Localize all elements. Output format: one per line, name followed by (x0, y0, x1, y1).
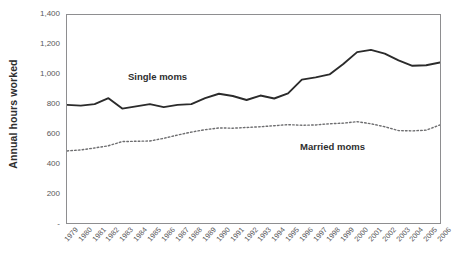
series-label-married-moms: Married moms (300, 141, 365, 152)
y-tick-label: 1,400 (26, 10, 64, 18)
x-tick-label: 1984 (132, 226, 148, 243)
y-tick-label: 600 (26, 130, 64, 138)
x-tick-label: 1996 (298, 226, 314, 243)
x-axis-tick-labels: 1979198019811982198319841985198619871988… (66, 226, 441, 256)
x-tick-label: 1986 (160, 226, 176, 243)
y-axis-title-text: Annual hours worked (7, 59, 19, 168)
y-axis-tick-labels: 1,4001,2001,000800600400200- (26, 0, 64, 256)
y-tick-label: 1,000 (26, 70, 64, 78)
x-tick-label: 1989 (201, 226, 217, 243)
plot-svg (67, 15, 440, 223)
series-label-single-moms: Single moms (128, 71, 187, 82)
y-tick-label: 200 (26, 190, 64, 198)
x-tick-label: 2000 (353, 226, 369, 243)
x-tick-label: 1995 (284, 226, 300, 243)
series-line-married-moms (67, 122, 440, 151)
y-tick-label: 400 (26, 160, 64, 168)
x-tick-label: 2002 (381, 226, 397, 243)
x-tick-label: 1980 (77, 226, 93, 243)
plot-area (66, 14, 441, 224)
x-tick-label: 1990 (215, 226, 231, 243)
x-tick-label: 1979 (63, 226, 79, 243)
x-tick-label: 1991 (229, 226, 245, 243)
x-tick-label: 2006 (436, 226, 452, 243)
x-tick-label: 2001 (367, 226, 383, 243)
series-line-single-moms (67, 50, 440, 109)
y-tick-label: - (26, 220, 64, 228)
x-tick-label: 1985 (146, 226, 162, 243)
y-tick-label: 1,200 (26, 40, 64, 48)
chart-container: Annual hours worked 1,4001,2001,00080060… (0, 0, 453, 256)
y-tick-label: 800 (26, 100, 64, 108)
y-axis-title: Annual hours worked (0, 0, 26, 228)
